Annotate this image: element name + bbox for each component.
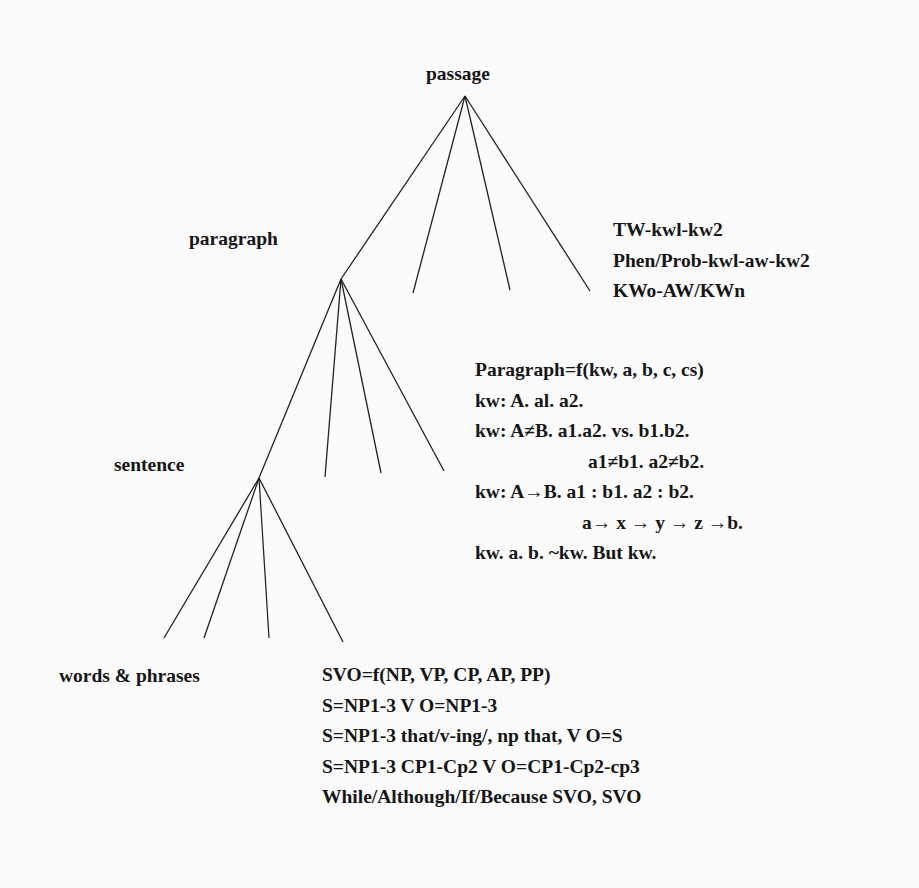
paragraph-note: kw: A→B. a1 : b1. a2 : b2. bbox=[475, 477, 743, 508]
paragraph-note: kw: A. al. a2. bbox=[475, 386, 743, 417]
passage-note: KWo-AW/KWn bbox=[613, 276, 810, 307]
edge-sentence-child-4 bbox=[259, 478, 343, 642]
sentence-note: While/Although/If/Because SVO, SVO bbox=[322, 782, 641, 813]
sentence-note: S=NP1-3 that/v-ing/, np that, V O=S bbox=[322, 721, 641, 752]
sentence-note: S=NP1-3 V O=NP1-3 bbox=[322, 691, 641, 722]
edge-paragraph-child-4 bbox=[341, 279, 444, 471]
edge-passage-child-3 bbox=[465, 96, 510, 290]
edge-paragraph-child-3 bbox=[341, 279, 381, 473]
node-passage: passage bbox=[426, 64, 490, 84]
paragraph-note: a→ x → y → z →b. bbox=[475, 508, 743, 539]
paragraph-notes: Paragraph=f(kw, a, b, c, cs) kw: A. al. … bbox=[475, 355, 743, 569]
edge-paragraph-sentence bbox=[259, 279, 341, 478]
paragraph-note: Paragraph=f(kw, a, b, c, cs) bbox=[475, 355, 743, 386]
edge-passage-child-2 bbox=[413, 96, 465, 293]
paragraph-note: a1≠b1. a2≠b2. bbox=[475, 447, 743, 478]
node-words-phrases: words & phrases bbox=[59, 666, 200, 686]
edge-passage-paragraph bbox=[341, 96, 465, 279]
paragraph-note: kw: A≠B. a1.a2. vs. b1.b2. bbox=[475, 416, 743, 447]
passage-note: TW-kwl-kw2 bbox=[613, 215, 810, 246]
edge-sentence-words bbox=[164, 478, 259, 638]
edge-sentence-child-3 bbox=[259, 478, 269, 638]
sentence-note: SVO=f(NP, VP, CP, AP, PP) bbox=[322, 660, 641, 691]
sentence-note: S=NP1-3 CP1-Cp2 V O=CP1-Cp2-cp3 bbox=[322, 752, 641, 783]
paragraph-note: kw. a. b. ~kw. But kw. bbox=[475, 538, 743, 569]
edge-passage-child-4 bbox=[465, 96, 590, 291]
passage-notes: TW-kwl-kw2 Phen/Prob-kwl-aw-kw2 KWo-AW/K… bbox=[613, 215, 810, 307]
node-paragraph: paragraph bbox=[189, 229, 278, 249]
passage-note: Phen/Prob-kwl-aw-kw2 bbox=[613, 246, 810, 277]
edge-paragraph-child-2 bbox=[325, 279, 341, 477]
sentence-notes: SVO=f(NP, VP, CP, AP, PP) S=NP1-3 V O=NP… bbox=[322, 660, 641, 813]
node-sentence: sentence bbox=[114, 455, 184, 475]
